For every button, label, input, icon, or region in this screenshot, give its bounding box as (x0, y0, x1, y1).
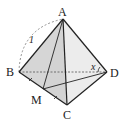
angle-label-x: x (90, 61, 96, 72)
vertex-label-b: B (6, 65, 14, 79)
vertex-label-d: D (110, 66, 119, 80)
edge-length-label: 1 (29, 34, 34, 45)
tetrahedron-diagram: A B C D M 1 x (0, 0, 127, 126)
vertex-label-c: C (63, 108, 71, 122)
point-label-m: M (31, 93, 42, 107)
face-acd (63, 19, 107, 105)
vertex-label-a: A (58, 5, 67, 19)
